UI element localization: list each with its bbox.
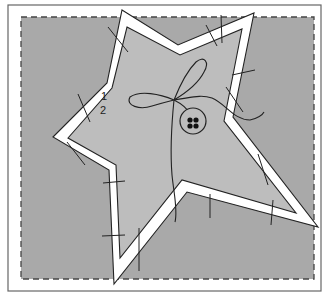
step-label-2: 2 [100,105,106,116]
step-label-1: 1 [101,91,107,102]
diagram-canvas: 1 2 [0,0,327,297]
button-graphic [180,108,206,134]
star-applique-illustration [0,0,327,297]
